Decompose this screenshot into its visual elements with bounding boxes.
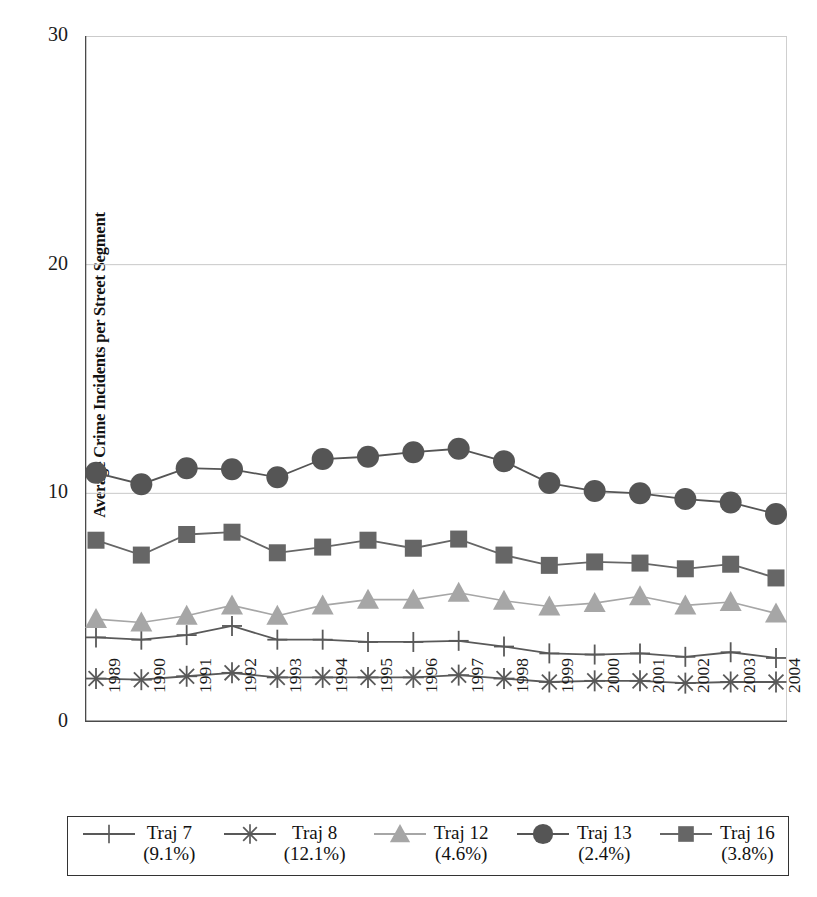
circle-marker xyxy=(357,446,379,468)
circle-marker xyxy=(720,491,742,513)
plot-area xyxy=(85,36,787,722)
triangle-marker xyxy=(390,824,410,842)
legend-swatch-triangle-icon xyxy=(372,823,428,845)
y-tick-label-20: 20 xyxy=(22,252,68,275)
square-marker xyxy=(269,544,286,561)
circle-marker xyxy=(85,462,107,484)
x-tick-label-2001: 2001 xyxy=(648,658,669,728)
circle-marker xyxy=(130,473,152,495)
triangle-marker xyxy=(85,608,107,628)
x-tick-label-1990: 1990 xyxy=(149,658,170,728)
y-tick-label-10: 10 xyxy=(22,480,68,503)
circle-marker xyxy=(312,448,334,470)
triangle-marker xyxy=(629,585,651,605)
legend-row: Traj 7(9.1%)Traj 8(12.1%)Traj 12(4.6%)Tr… xyxy=(68,817,788,875)
legend-swatch-plus-icon xyxy=(81,823,137,845)
y-tick-label-0: 0 xyxy=(22,709,68,732)
legend-item-traj-16[interactable]: Traj 16(3.8%) xyxy=(658,822,775,865)
square-marker xyxy=(541,557,558,574)
legend-series-percent: (3.8%) xyxy=(721,843,773,864)
x-tick-label-1997: 1997 xyxy=(467,658,488,728)
square-marker xyxy=(677,560,694,577)
square-marker xyxy=(632,555,649,572)
square-marker xyxy=(722,556,739,573)
square-marker xyxy=(496,547,513,564)
x-tick-label-1994: 1994 xyxy=(331,658,352,728)
plus-marker xyxy=(721,642,741,662)
x-tick-label-2000: 2000 xyxy=(603,658,624,728)
series-line xyxy=(96,449,776,514)
x-tick-label-2002: 2002 xyxy=(693,658,714,728)
plus-marker xyxy=(630,643,650,663)
legend-series-name: Traj 16 xyxy=(720,822,775,843)
circle-marker xyxy=(176,457,198,479)
series-traj-12 xyxy=(85,582,787,632)
plus-marker xyxy=(313,630,333,650)
square-marker xyxy=(88,532,105,549)
x-tick-label-2004: 2004 xyxy=(784,658,805,728)
legend-text: Traj 7(9.1%) xyxy=(143,822,195,865)
x-tick-label-1995: 1995 xyxy=(376,658,397,728)
legend-swatch-circle-icon xyxy=(515,823,571,845)
plus-marker xyxy=(403,632,423,652)
triangle-marker xyxy=(221,594,243,614)
triangle-marker xyxy=(448,582,470,602)
circle-marker xyxy=(765,503,787,525)
square-marker xyxy=(586,553,603,570)
triangle-marker xyxy=(765,602,787,622)
series-line xyxy=(96,626,776,658)
legend-item-traj-13[interactable]: Traj 13(2.4%) xyxy=(515,822,632,865)
square-marker xyxy=(768,569,785,586)
legend-item-traj-8[interactable]: Traj 8(12.1%) xyxy=(222,822,346,865)
legend-swatch-square-icon xyxy=(658,823,714,845)
square-marker xyxy=(314,539,331,556)
square-marker xyxy=(450,531,467,548)
legend-series-name: Traj 12 xyxy=(434,822,489,843)
crime-trajectory-chart: Average Crime Incidents per Street Segme… xyxy=(0,0,817,897)
plus-marker xyxy=(131,630,151,650)
square-marker xyxy=(405,540,422,557)
legend-series-percent: (4.6%) xyxy=(435,843,487,864)
x-tick-label-1999: 1999 xyxy=(557,658,578,728)
legend-series-percent: (2.4%) xyxy=(578,843,630,864)
legend-text: Traj 8(12.1%) xyxy=(284,822,346,865)
triangle-marker xyxy=(357,589,379,609)
legend: Traj 7(9.1%)Traj 8(12.1%)Traj 12(4.6%)Tr… xyxy=(67,816,789,876)
circle-marker xyxy=(221,458,243,480)
series-traj-13 xyxy=(85,438,787,525)
circle-marker xyxy=(402,441,424,463)
series-line xyxy=(96,532,776,578)
square-marker xyxy=(224,524,241,541)
plus-marker xyxy=(177,625,197,645)
plus-marker xyxy=(449,631,469,651)
x-tick-label-1998: 1998 xyxy=(512,658,533,728)
circle-marker xyxy=(584,480,606,502)
plus-marker xyxy=(222,616,242,636)
x-tick-label-1996: 1996 xyxy=(421,658,442,728)
legend-series-name: Traj 7 xyxy=(147,822,192,843)
series-line xyxy=(96,593,776,623)
legend-series-percent: (9.1%) xyxy=(143,843,195,864)
circle-marker xyxy=(493,450,515,472)
square-marker xyxy=(360,532,377,549)
asterisk-marker xyxy=(240,824,259,843)
square-marker xyxy=(178,526,195,543)
series-traj-16 xyxy=(88,524,785,587)
plus-marker xyxy=(585,645,605,665)
legend-series-percent: (12.1%) xyxy=(284,843,346,864)
plus-marker xyxy=(267,630,287,650)
plus-marker xyxy=(766,648,786,668)
legend-item-traj-7[interactable]: Traj 7(9.1%) xyxy=(81,822,195,865)
square-marker xyxy=(678,826,694,842)
legend-item-traj-12[interactable]: Traj 12(4.6%) xyxy=(372,822,489,865)
circle-marker xyxy=(448,438,470,460)
legend-text: Traj 12(4.6%) xyxy=(434,822,489,865)
legend-text: Traj 13(2.4%) xyxy=(577,822,632,865)
triangle-marker xyxy=(720,591,742,611)
circle-marker xyxy=(538,472,560,494)
plus-marker xyxy=(494,637,514,657)
plus-marker xyxy=(86,627,106,647)
y-tick-label-30: 30 xyxy=(22,23,68,46)
circle-marker xyxy=(674,488,696,510)
circle-marker xyxy=(266,466,288,488)
